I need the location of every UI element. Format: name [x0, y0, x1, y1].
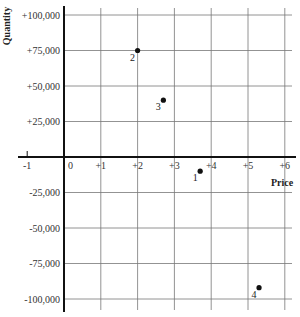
y-tick-label: -100,000	[24, 294, 60, 305]
y-tick-label: +100,000	[22, 10, 60, 21]
data-point	[135, 48, 140, 53]
x-axis-label: Price	[271, 177, 294, 188]
x-tick-label: +6	[279, 160, 290, 171]
x-tick-label: -1	[23, 160, 31, 171]
x-tick-label: +4	[206, 160, 217, 171]
x-tick-label: +1	[95, 160, 106, 171]
grid-lines	[64, 8, 292, 310]
data-point	[256, 285, 261, 290]
y-tick-label: -50,000	[29, 223, 60, 234]
x-tick-label: +2	[132, 160, 143, 171]
data-point-label: 1	[193, 172, 198, 183]
data-point-label: 3	[156, 101, 161, 112]
data-point-label: 2	[130, 52, 135, 63]
x-tick-label: +3	[169, 160, 180, 171]
data-point	[161, 98, 166, 103]
scatter-chart: -10+1+2+3+4+5+6+100,000+75,000+50,000+25…	[0, 0, 300, 317]
y-tick-label: -25,000	[29, 187, 60, 198]
y-tick-label: +75,000	[27, 45, 60, 56]
y-tick-label: -75,000	[29, 258, 60, 269]
y-tick-label: +50,000	[27, 81, 60, 92]
y-axis-label: Quantity	[1, 7, 12, 45]
data-point-label: 4	[252, 289, 257, 300]
y-tick-label: +25,000	[27, 116, 60, 127]
x-tick-label: 0	[68, 160, 73, 171]
data-point	[198, 169, 203, 174]
x-tick-label: +5	[243, 160, 254, 171]
